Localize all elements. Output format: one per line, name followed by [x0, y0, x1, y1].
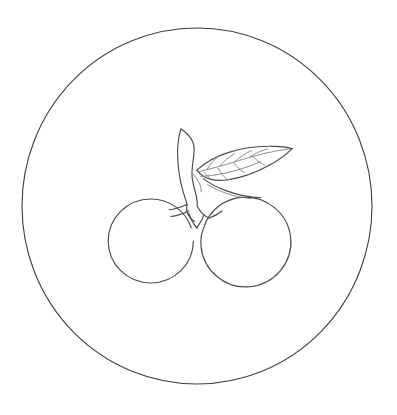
drawing-canvas: Cherries line drawing Black and white ou…: [0, 0, 397, 415]
stalk-to-left-cherry-lower: [171, 211, 189, 217]
stem-group: [178, 129, 202, 206]
right-cherry-group: [201, 197, 291, 287]
stem-junction-group: [169, 205, 222, 228]
lower-leaf-sweep-group: [203, 179, 261, 199]
leaf-upper-edge: [197, 146, 292, 170]
leaf-vein-upper-1: [207, 156, 219, 169]
cherries-line-drawing: Cherries line drawing Black and white ou…: [0, 0, 397, 415]
left-cherry-group: [108, 199, 193, 283]
right-cherry-outline: [201, 197, 291, 287]
stem-left-edge: [178, 129, 188, 205]
leaf-group: [197, 146, 292, 180]
left-cherry-outline: [108, 199, 193, 283]
stalk-to-right-cherry: [210, 211, 222, 218]
leaf-vein-upper-4: [250, 149, 268, 157]
leaf-vein-upper-3: [235, 151, 252, 162]
junction-tip-right: [197, 215, 204, 228]
leaf-vein-lower-3: [234, 163, 245, 173]
